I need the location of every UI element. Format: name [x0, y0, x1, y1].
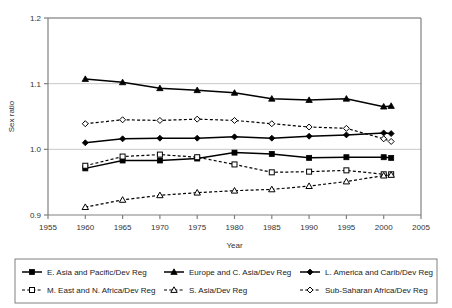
series-marker — [269, 135, 275, 141]
y-axis-title: Sex ratio — [7, 100, 16, 132]
series-marker — [157, 192, 163, 198]
x-tick-label: 1980 — [226, 223, 244, 232]
x-tick-label: 1965 — [114, 223, 132, 232]
data-series — [82, 172, 394, 210]
data-series — [82, 116, 394, 144]
series-marker — [344, 168, 349, 173]
series-marker — [232, 117, 238, 123]
data-series — [82, 130, 394, 146]
series-marker — [343, 125, 349, 131]
x-tick-label: 1960 — [76, 223, 94, 232]
series-marker — [82, 121, 88, 127]
series-marker — [343, 132, 349, 138]
series-marker — [232, 134, 238, 140]
series-marker — [381, 155, 386, 160]
x-axis-title: Year — [226, 241, 243, 250]
series-marker — [83, 163, 88, 168]
series-marker — [306, 183, 312, 189]
legend-label: M. East and N. Africa/Dev Reg — [47, 286, 156, 295]
series-marker — [232, 162, 237, 167]
x-tick-label: 1990 — [300, 223, 318, 232]
series-marker — [157, 135, 163, 141]
legend-box — [15, 259, 437, 303]
chart-canvas: 0.91.01.11.21955196019651970197519801985… — [0, 0, 452, 308]
series-marker — [119, 197, 125, 203]
y-tick-label: 1.2 — [30, 14, 42, 23]
series-marker — [120, 136, 126, 142]
y-tick-label: 1.0 — [30, 145, 42, 154]
series-marker — [306, 124, 312, 130]
y-tick-label: 0.9 — [30, 211, 42, 220]
series-marker — [388, 138, 394, 144]
sex-ratio-line-chart: 0.91.01.11.21955196019651970197519801985… — [0, 0, 452, 308]
data-series-group — [82, 76, 394, 210]
series-marker — [269, 121, 275, 127]
x-axis: 1955196019651970197519801985199019952000… — [39, 215, 430, 232]
legend-label: S. Asia/Dev Reg — [189, 286, 247, 295]
series-marker — [269, 170, 274, 175]
legend-label: E. Asia and Pacific/Dev Reg — [47, 268, 147, 277]
x-tick-label: 1985 — [263, 223, 281, 232]
series-marker — [388, 131, 394, 137]
series-marker — [232, 150, 237, 155]
x-tick-label: 1995 — [338, 223, 356, 232]
series-marker — [307, 155, 312, 160]
series-marker — [157, 117, 163, 123]
series-marker — [389, 155, 394, 160]
series-marker — [194, 116, 200, 122]
gridlines — [48, 18, 421, 149]
y-tick-label: 1.1 — [30, 80, 42, 89]
series-marker — [194, 135, 200, 141]
series-marker — [82, 140, 88, 146]
legend-marker — [30, 270, 35, 275]
y-axis: 0.91.01.11.2 — [30, 14, 48, 220]
x-tick-label: 1955 — [39, 223, 57, 232]
x-tick-label: 2005 — [412, 223, 430, 232]
x-tick-label: 1975 — [188, 223, 206, 232]
series-marker — [344, 155, 349, 160]
series-marker — [343, 178, 349, 184]
legend: E. Asia and Pacific/Dev RegEurope and C.… — [15, 259, 437, 303]
plot-frame — [48, 18, 421, 215]
series-marker — [157, 152, 162, 157]
series-marker — [381, 136, 387, 142]
series-marker — [157, 158, 162, 163]
series-marker — [269, 151, 274, 156]
x-tick-label: 1970 — [151, 223, 169, 232]
series-marker — [195, 155, 200, 160]
legend-marker — [30, 288, 35, 293]
legend-label: Sub-Saharan Africa/Dev Reg — [325, 286, 428, 295]
series-marker — [381, 130, 387, 136]
series-marker — [120, 117, 126, 123]
x-tick-label: 2000 — [375, 223, 393, 232]
data-series — [82, 76, 394, 109]
series-marker — [120, 154, 125, 159]
series-marker — [306, 133, 312, 139]
legend-label: Europe and C. Asia/Dev Reg — [189, 268, 291, 277]
series-marker — [307, 169, 312, 174]
legend-label: L. America and Carib/Dev Reg — [325, 268, 433, 277]
